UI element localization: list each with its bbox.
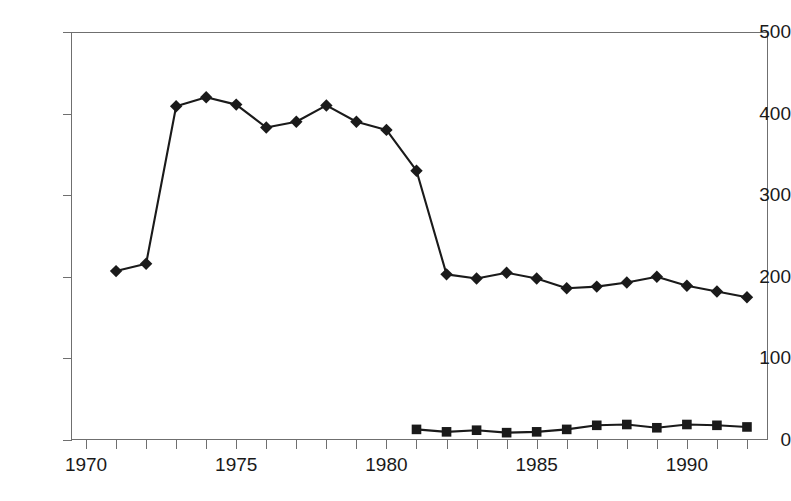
data-point-diamond (711, 285, 723, 297)
data-point-diamond (651, 271, 663, 283)
data-point-square (412, 425, 422, 435)
data-point-diamond (591, 280, 603, 292)
series-layer (0, 0, 791, 501)
data-point-square (562, 425, 572, 435)
series-diamond (110, 91, 753, 303)
data-point-diamond (200, 91, 212, 103)
data-point-diamond (621, 276, 633, 288)
data-point-diamond (470, 272, 482, 284)
data-point-diamond (110, 265, 122, 277)
data-point-square (472, 425, 482, 435)
data-point-square (622, 420, 632, 430)
data-point-square (532, 427, 542, 437)
data-point-diamond (140, 258, 152, 270)
data-point-diamond (500, 267, 512, 279)
data-point-square (712, 421, 722, 431)
data-point-diamond (320, 99, 332, 111)
data-point-diamond (741, 291, 753, 303)
data-point-diamond (561, 282, 573, 294)
data-point-diamond (530, 272, 542, 284)
series-square-line (417, 425, 747, 433)
data-point-diamond (290, 116, 302, 128)
series-square (412, 420, 752, 438)
data-point-square (742, 422, 752, 432)
data-point-diamond (681, 280, 693, 292)
data-point-square (502, 428, 512, 438)
data-point-square (592, 421, 602, 431)
data-point-diamond (440, 268, 452, 280)
series-diamond-line (116, 97, 747, 297)
data-point-diamond (170, 100, 182, 112)
line-chart: 0100200300400500 19701975198019851990 (0, 0, 791, 501)
data-point-diamond (350, 116, 362, 128)
data-point-square (682, 420, 692, 430)
data-point-square (442, 427, 452, 437)
data-point-square (652, 423, 662, 433)
